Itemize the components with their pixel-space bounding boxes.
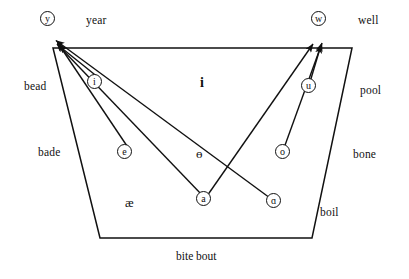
vowel-node-y[interactable]: y [40, 11, 55, 26]
vowel-symbol-e: e [122, 147, 126, 157]
arrow-e-to-y [58, 43, 128, 147]
label-bone: bone [353, 148, 376, 160]
vowel-node-i[interactable]: i [87, 74, 102, 89]
label-year: year [86, 14, 107, 26]
vowel-node-e[interactable]: e [117, 144, 132, 159]
vowel-symbol-a: a [201, 194, 205, 204]
vowel-symbol-open-a: ɑ [271, 196, 276, 206]
vowel-node-o[interactable]: o [275, 144, 290, 159]
vowel-symbol-w: w [315, 14, 322, 24]
label-bead: bead [24, 80, 47, 92]
vowel-schwa: ɵ [196, 147, 203, 160]
vowel-node-u[interactable]: u [301, 78, 316, 93]
vowel-node-open-a[interactable]: ɑ [266, 193, 281, 208]
arrow-open-a-to-y [56, 41, 270, 199]
vowel-symbol-i: i [93, 77, 96, 87]
arrow-a-to-w [207, 44, 313, 196]
label-boil: boil [320, 206, 339, 218]
vowel-symbol-y: y [45, 14, 50, 24]
label-pool: pool [360, 84, 381, 96]
vowel-symbol-u: u [306, 81, 311, 91]
arrow-a-to-y [57, 44, 202, 195]
label-bade: bade [38, 146, 61, 158]
vowel-bold-i: i [200, 76, 204, 90]
label-well: well [358, 14, 379, 26]
vowel-symbol-o: o [280, 147, 285, 157]
label-bite-bout: bite bout [176, 250, 217, 262]
vowel-ash: æ [125, 196, 134, 209]
vowel-node-a[interactable]: a [196, 191, 211, 206]
vowel-node-w[interactable]: w [311, 11, 326, 26]
vowel-quadrilateral-diagram [0, 0, 409, 279]
